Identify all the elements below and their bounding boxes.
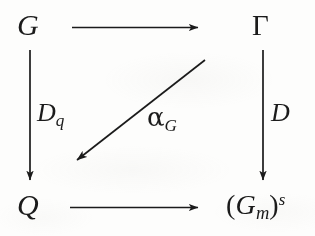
node-br-base: G <box>236 189 256 220</box>
node-top-right-Gamma: Γ <box>252 11 269 40</box>
commutative-diagram: G Γ Q (Gm)s Dq αG D <box>0 0 315 236</box>
open-paren: ( <box>226 189 236 220</box>
node-br-superscript: s <box>279 190 286 209</box>
label-diagonal-base: α <box>147 102 165 132</box>
label-left-arrow-Dq: Dq <box>37 100 64 129</box>
node-br-subscript: m <box>256 203 269 223</box>
node-bottom-left-Q: Q <box>17 190 39 220</box>
label-left-subscript: q <box>56 111 65 130</box>
node-bottom-right-Gm-s: (Gm)s <box>226 191 285 223</box>
close-paren: ) <box>269 189 279 220</box>
label-right-arrow-D: D <box>271 100 290 129</box>
label-diagonal-arrow-alphaG: αG <box>147 104 177 134</box>
label-left-base: D <box>37 98 56 127</box>
label-right-base: D <box>271 98 290 127</box>
arrow-diagonal-gamma-to-q <box>77 60 205 160</box>
node-top-left-G: G <box>17 10 39 40</box>
label-diagonal-subscript: G <box>165 116 177 135</box>
